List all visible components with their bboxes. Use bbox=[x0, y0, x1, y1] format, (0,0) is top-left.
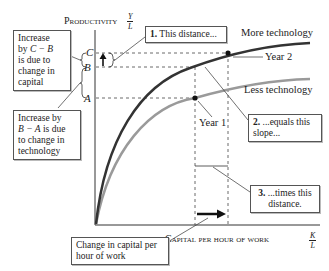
year1-point bbox=[192, 95, 197, 100]
more-technology-label: More technology bbox=[241, 27, 313, 38]
right-arrow-icon bbox=[217, 210, 226, 219]
year2-label: Year 2 bbox=[265, 51, 292, 62]
box-equals-slope: 2. ...equals this slope... bbox=[248, 114, 322, 142]
year1-label: Year 1 bbox=[199, 117, 226, 128]
right-brace-icon bbox=[109, 53, 115, 67]
year2-point bbox=[225, 50, 230, 55]
tick-b: B bbox=[84, 61, 91, 73]
up-arrow-icon bbox=[100, 53, 107, 59]
x-axis-label: Capital per hour of work bbox=[165, 233, 269, 244]
leader-box1 bbox=[115, 37, 145, 60]
technology-increase-box: Increase by B − A is due to change in te… bbox=[13, 110, 81, 160]
tick-c: C bbox=[86, 46, 93, 58]
leader-box3 bbox=[213, 167, 250, 192]
tick-a: A bbox=[84, 92, 91, 104]
x-axis-fraction: K L bbox=[309, 231, 316, 250]
y-axis-fraction: Y L bbox=[127, 12, 133, 31]
box-times-distance: 3. ...times this distance. bbox=[250, 185, 320, 213]
change-capital-box: Change in capital per hour of work bbox=[71, 237, 169, 265]
leader-year1 bbox=[198, 101, 212, 117]
less-technology-label: Less technology bbox=[244, 84, 313, 95]
box-this-distance: 1. This distance... bbox=[145, 26, 227, 43]
y-axis-label: Productivity bbox=[64, 15, 117, 26]
capital-increase-box: Increase by C − B is due to change in ca… bbox=[13, 30, 71, 91]
